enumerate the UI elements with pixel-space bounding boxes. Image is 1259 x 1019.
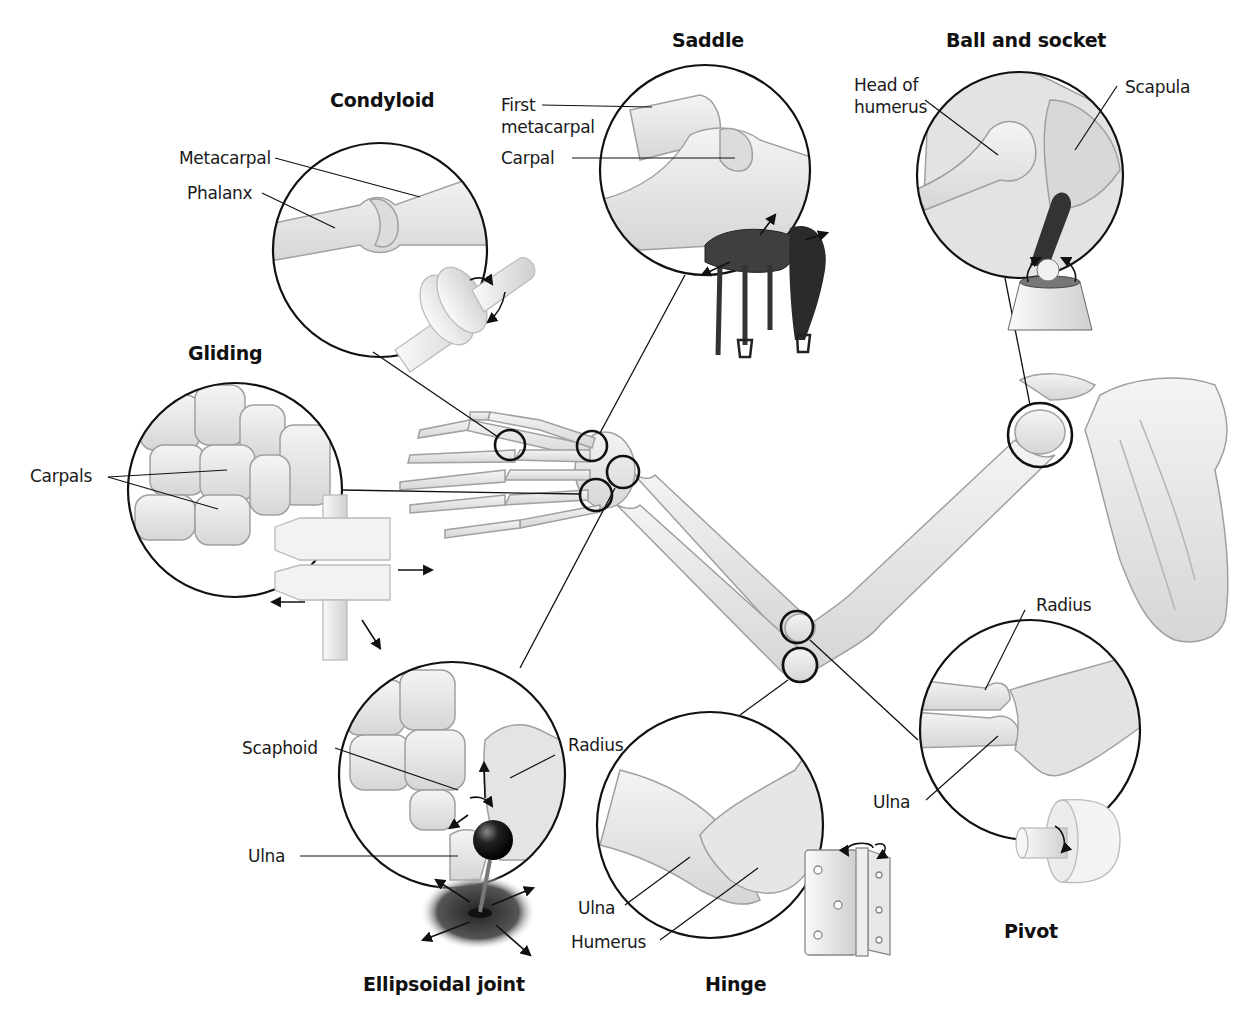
label-ulna-wrist: Ulna — [248, 845, 285, 867]
label-scapula: Scapula — [1125, 76, 1190, 98]
hinge-detail — [597, 712, 890, 956]
title-saddle: Saddle — [672, 29, 744, 51]
title-gliding: Gliding — [188, 342, 262, 364]
scapula-bone — [1085, 378, 1228, 642]
label-radius-pivot: Radius — [1036, 594, 1091, 616]
disc-on-axle-icon — [395, 258, 535, 372]
label-phalanx: Phalanx — [187, 182, 252, 204]
horse-saddle-icon — [702, 215, 827, 357]
pivot-detail — [915, 610, 1150, 883]
label-head-of-humerus: Head of humerus — [854, 74, 927, 118]
label-metacarpal: Metacarpal — [179, 147, 271, 169]
ellipsoidal-detail — [300, 662, 600, 955]
label-carpal: Carpal — [501, 147, 554, 169]
title-pivot: Pivot — [1004, 920, 1058, 942]
label-ulna-elbow: Ulna — [578, 897, 615, 919]
gliding-detail — [108, 383, 432, 660]
forearm-radius-bone — [630, 470, 815, 644]
label-first-metacarpal: First metacarpal — [501, 94, 595, 138]
label-scaphoid: Scaphoid — [242, 737, 318, 759]
condyloid-detail — [262, 143, 535, 372]
label-humerus-elbow: Humerus — [571, 931, 646, 953]
title-condyloid: Condyloid — [330, 89, 434, 111]
title-ball-and-socket: Ball and socket — [946, 29, 1106, 51]
skeleton-arm — [400, 374, 1228, 682]
door-hinge-icon — [805, 843, 890, 956]
label-ulna-pivot: Ulna — [873, 791, 910, 813]
sliding-plates-icon — [272, 495, 432, 660]
forearm-ulna-bone — [612, 500, 812, 675]
title-ellipsoidal-joint: Ellipsoidal joint — [363, 973, 525, 995]
title-hinge: Hinge — [705, 973, 766, 995]
humerus-bone — [794, 440, 1055, 670]
ball-and-socket-detail — [915, 63, 1130, 330]
label-carpals: Carpals — [30, 465, 92, 487]
axle-in-wheel-icon — [1016, 799, 1120, 882]
label-radius-wrist: Radius — [568, 734, 623, 756]
